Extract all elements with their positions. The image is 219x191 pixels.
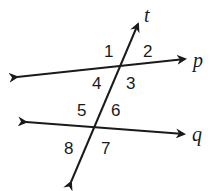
angle-label-8: 8 [64, 139, 73, 158]
angle-label-2: 2 [143, 42, 152, 61]
angle-label-1: 1 [104, 42, 113, 61]
angle-label-7: 7 [101, 139, 110, 158]
line-q [26, 122, 184, 134]
angle-label-3: 3 [126, 74, 135, 93]
line-label-t: t [144, 4, 150, 26]
angle-label-5: 5 [77, 101, 86, 120]
diagram-canvas: t p q 1 2 4 3 5 6 8 7 [0, 0, 219, 191]
line-label-q: q [192, 123, 202, 146]
angle-label-6: 6 [111, 101, 120, 120]
line-label-p: p [191, 49, 203, 72]
angle-label-4: 4 [92, 74, 101, 93]
